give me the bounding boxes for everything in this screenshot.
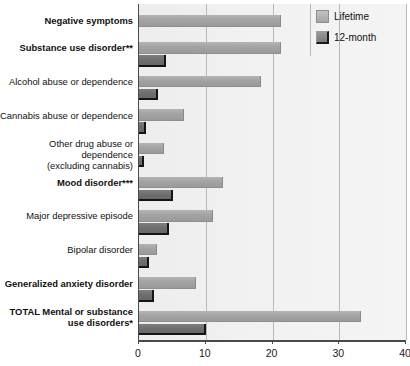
category-label: Mood disorder***	[0, 177, 133, 188]
tick-label-10: 10	[199, 347, 211, 359]
bar-12-month	[139, 156, 144, 168]
legend-swatch-lifetime	[316, 10, 329, 23]
tick-mark-10	[205, 340, 206, 344]
gridline-30	[339, 4, 340, 340]
bar-lifetime	[139, 311, 361, 323]
bar-lifetime	[139, 109, 184, 121]
legend-swatch-12-month	[316, 31, 329, 44]
tick-label-0: 0	[135, 347, 141, 359]
gridline-20	[273, 4, 274, 340]
legend-divider	[310, 4, 311, 56]
bar-12-month	[139, 89, 158, 101]
bar-12-month	[139, 190, 173, 202]
bar-12-month	[139, 122, 146, 134]
bar-lifetime	[139, 15, 281, 27]
bar-lifetime	[139, 177, 223, 189]
tick-mark-20	[272, 340, 273, 344]
legend-label-12-month: 12-month	[334, 32, 376, 43]
bar-lifetime	[139, 143, 164, 155]
bar-lifetime	[139, 210, 213, 222]
legend-item-12-month[interactable]: 12-month	[316, 31, 404, 44]
category-label: Generalized anxiety disorder	[0, 278, 133, 289]
tick-mark-0	[138, 340, 139, 344]
category-label: Substance use disorder**	[0, 42, 133, 53]
tick-mark-30	[338, 340, 339, 344]
legend-label-lifetime: Lifetime	[334, 11, 369, 22]
category-label: TOTAL Mental or substance use disorders*	[0, 306, 133, 328]
gridline-10	[206, 4, 207, 340]
category-label: Other drug abuse or dependence (excludin…	[0, 138, 133, 171]
bar-12-month	[139, 290, 154, 302]
gridline-40	[406, 4, 407, 340]
chart-legend: Lifetime 12-month	[316, 10, 404, 52]
tick-mark-40	[405, 340, 406, 344]
legend-item-lifetime[interactable]: Lifetime	[316, 10, 404, 23]
plot-area	[138, 4, 406, 340]
category-label: Major depressive episode	[0, 210, 133, 221]
bar-chart: 010203040 Negative symptomsSubstance use…	[0, 0, 410, 366]
bar-12-month	[139, 223, 169, 235]
tick-label-40: 40	[399, 347, 410, 359]
category-label: Bipolar disorder	[0, 244, 133, 255]
tick-label-20: 20	[266, 347, 278, 359]
bar-lifetime	[139, 277, 196, 289]
category-label: Cannabis abuse or dependence	[0, 110, 133, 121]
bar-lifetime	[139, 42, 281, 54]
bar-12-month	[139, 55, 166, 67]
bar-lifetime	[139, 244, 157, 256]
bar-12-month	[139, 324, 206, 336]
bar-lifetime	[139, 76, 261, 88]
bar-12-month	[139, 257, 149, 269]
tick-label-30: 30	[332, 347, 344, 359]
category-label: Alcohol abuse or dependence	[0, 76, 133, 87]
category-label: Negative symptoms	[0, 15, 133, 26]
